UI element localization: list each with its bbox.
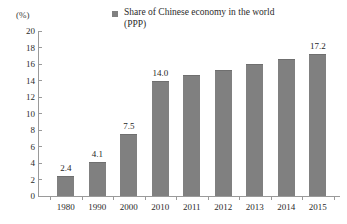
bar xyxy=(309,54,326,196)
y-axis-tick-label: 2 xyxy=(31,175,40,185)
bar xyxy=(183,75,200,196)
x-axis-line xyxy=(38,196,340,197)
y-axis-tick: 6 xyxy=(4,142,42,152)
x-axis-tick-mark xyxy=(208,197,209,200)
y-axis-tick-label: 0 xyxy=(31,191,40,201)
x-axis-category-label: 1980 xyxy=(49,202,83,212)
y-axis-tick-mark xyxy=(39,80,42,81)
y-axis-tick: 12 xyxy=(4,92,42,102)
y-axis-tick-label: 6 xyxy=(31,142,40,152)
x-axis-category-label: 2012 xyxy=(206,202,240,212)
bar xyxy=(215,70,232,196)
x-axis-category-label: 2015 xyxy=(301,202,335,212)
y-axis-tick-label: 4 xyxy=(31,158,40,168)
x-axis-category-label: 2013 xyxy=(238,202,272,212)
y-axis-tick-mark xyxy=(39,130,42,131)
x-axis-tick-mark xyxy=(239,197,240,200)
y-axis-tick-label: 8 xyxy=(31,125,40,135)
y-axis-tick-label: 12 xyxy=(26,92,39,102)
x-axis-category-label: 2010 xyxy=(143,202,177,212)
y-axis-tick: 0 xyxy=(4,191,42,201)
x-axis-tick-mark xyxy=(50,197,51,200)
y-axis-unit-label: (%) xyxy=(16,10,30,20)
bar xyxy=(246,64,263,196)
y-axis-tick-mark xyxy=(39,179,42,180)
bar xyxy=(278,59,295,196)
bar-value-label: 17.2 xyxy=(302,41,334,51)
x-axis-tick-mark xyxy=(334,197,335,200)
legend-swatch-icon xyxy=(112,11,118,17)
plot-area: 20181614121086420 2.44.17.514.017.2 xyxy=(38,31,340,196)
x-axis-category-label: 2000 xyxy=(112,202,146,212)
chart-figure: (%) Share of Chinese economy in the worl… xyxy=(0,0,347,224)
x-axis-category-label: 1990 xyxy=(80,202,114,212)
bar xyxy=(152,81,169,197)
x-axis-tick-mark xyxy=(176,197,177,200)
y-axis-tick: 16 xyxy=(4,59,42,69)
y-axis-tick-mark xyxy=(39,97,42,98)
y-axis-tick: 20 xyxy=(4,26,42,36)
y-axis-tick-mark xyxy=(39,146,42,147)
bar-value-label: 2.4 xyxy=(50,163,82,173)
y-axis-tick-mark xyxy=(39,64,42,65)
bar xyxy=(89,162,106,196)
x-axis-category-label: 2011 xyxy=(175,202,209,212)
legend-label: Share of Chinese economy in the world (P… xyxy=(124,7,284,30)
x-axis-tick-mark xyxy=(302,197,303,200)
y-axis-tick-label: 16 xyxy=(26,59,39,69)
y-axis-tick: 8 xyxy=(4,125,42,135)
y-axis-tick-mark xyxy=(39,163,42,164)
y-axis-tick-label: 18 xyxy=(26,43,39,53)
x-axis-tick-mark xyxy=(271,197,272,200)
y-axis-tick-mark xyxy=(39,31,42,32)
y-axis-tick-mark xyxy=(39,196,42,197)
y-axis-tick-label: 14 xyxy=(26,76,39,86)
chart-legend: Share of Chinese economy in the world (P… xyxy=(112,7,284,30)
bar-value-label: 7.5 xyxy=(113,121,145,131)
x-axis-tick-mark xyxy=(82,197,83,200)
y-axis-tick: 10 xyxy=(4,109,42,119)
bar xyxy=(57,176,74,196)
y-axis-tick: 18 xyxy=(4,43,42,53)
y-axis-tick-mark xyxy=(39,113,42,114)
bar-value-label: 4.1 xyxy=(81,149,113,159)
x-axis-category-label: 2014 xyxy=(269,202,303,212)
y-axis-tick-label: 10 xyxy=(26,109,39,119)
y-axis-tick: 4 xyxy=(4,158,42,168)
x-axis-tick-mark xyxy=(145,197,146,200)
y-axis-tick: 2 xyxy=(4,175,42,185)
bar-value-label: 14.0 xyxy=(144,68,176,78)
y-axis-tick-mark xyxy=(39,47,42,48)
y-axis-tick-label: 20 xyxy=(26,26,39,36)
x-axis-tick-mark xyxy=(113,197,114,200)
bar xyxy=(120,134,137,196)
y-axis-tick: 14 xyxy=(4,76,42,86)
